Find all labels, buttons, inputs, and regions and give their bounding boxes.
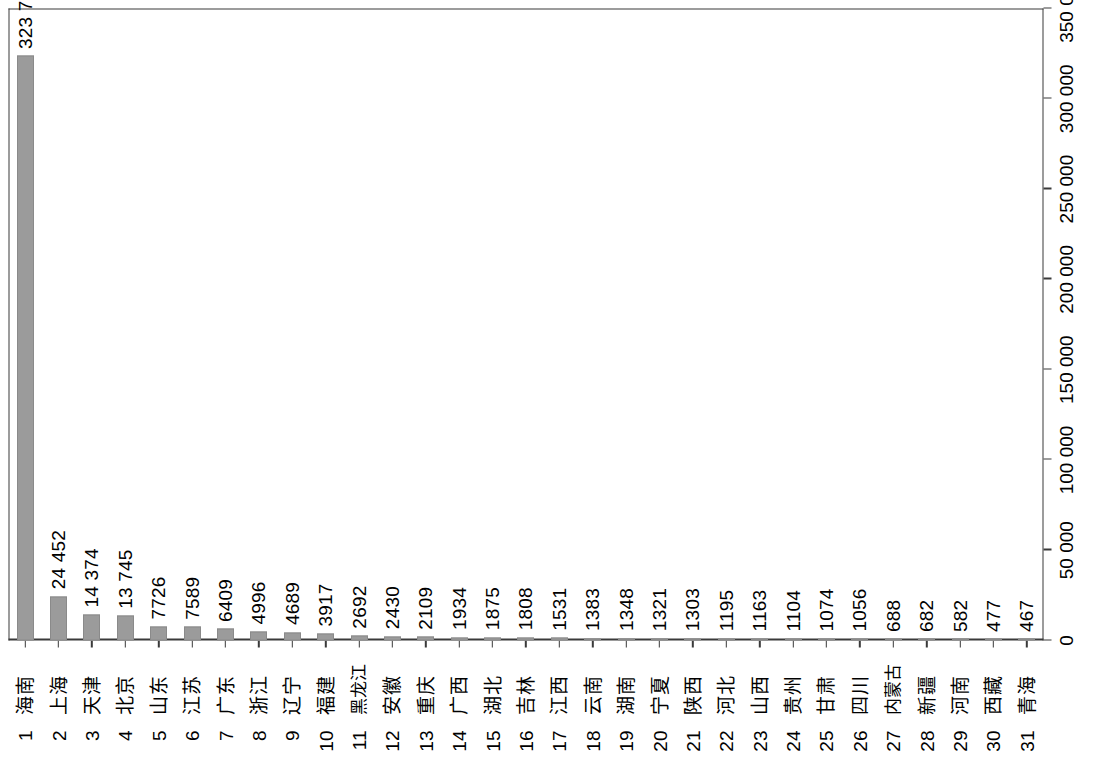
bar — [250, 631, 267, 640]
category-label: 18云南 — [576, 640, 609, 770]
category-rank: 19 — [616, 730, 635, 760]
value-axis: 050 000100 000150 000200 000250 000300 0… — [1043, 8, 1103, 640]
bar — [83, 614, 100, 640]
category-label: 22河北 — [709, 640, 742, 770]
category-rank: 26 — [850, 730, 869, 760]
category-name: 北京 — [115, 640, 134, 714]
bar-value-label: 1056 — [850, 588, 869, 631]
bar-value-label: 24 452 — [49, 530, 68, 589]
bar — [684, 638, 701, 640]
category-rank: 13 — [416, 730, 435, 760]
bar — [884, 638, 901, 640]
bar-value-label: 1104 — [783, 589, 802, 631]
category-label: 8浙江 — [242, 640, 275, 770]
value-tick-label: 250 000 — [1056, 154, 1075, 223]
bar — [951, 638, 968, 640]
category-name: 吉林 — [516, 640, 535, 714]
bar-row: 1383 — [576, 8, 609, 640]
category-rank: 12 — [382, 730, 401, 760]
category-tick — [158, 640, 159, 647]
bar-value-label: 2430 — [382, 586, 401, 629]
category-tick — [658, 640, 659, 647]
bar-row: 1934 — [442, 8, 475, 640]
bar-row: 7726 — [142, 8, 175, 640]
bar-value-label: 1531 — [549, 587, 568, 630]
category-label: 26四川 — [843, 640, 876, 770]
bar-value-label: 1934 — [449, 586, 468, 629]
category-label: 9辽宁 — [275, 640, 308, 770]
bar — [383, 636, 400, 640]
category-name: 海南 — [15, 640, 34, 714]
category-tick — [525, 640, 526, 647]
category-name: 黑龙江 — [350, 640, 367, 714]
category-name: 宁夏 — [650, 640, 669, 714]
value-tick — [1043, 368, 1051, 369]
category-name: 云南 — [583, 640, 602, 714]
category-label: 14广西 — [442, 640, 475, 770]
category-name: 贵州 — [783, 640, 802, 714]
category-label: 28新疆 — [909, 640, 942, 770]
bar — [450, 637, 467, 640]
bar-row: 4689 — [275, 8, 308, 640]
category-name: 天津 — [82, 640, 101, 714]
category-rank: 2 — [49, 730, 68, 760]
category-rank: 28 — [917, 730, 936, 760]
category-rank: 10 — [316, 730, 335, 760]
bar-row: 477 — [976, 8, 1009, 640]
bar-row: 2692 — [342, 8, 375, 640]
bar — [550, 637, 567, 640]
category-name: 西藏 — [983, 640, 1002, 714]
category-name: 广东 — [216, 640, 235, 714]
value-tick — [1043, 548, 1051, 549]
value-tick-label: 0 — [1056, 635, 1075, 646]
category-rank: 30 — [983, 730, 1002, 760]
category-tick — [592, 640, 593, 647]
bar-value-label: 682 — [917, 599, 936, 631]
bar-value-label: 1195 — [716, 589, 735, 631]
category-tick — [391, 640, 392, 647]
bar-value-label: 13 745 — [115, 549, 134, 608]
bar-row: 7589 — [175, 8, 208, 640]
bar — [918, 638, 935, 640]
bar — [283, 632, 300, 640]
category-rank: 11 — [349, 730, 368, 760]
category-name: 浙江 — [249, 640, 268, 714]
bar-row: 24 452 — [41, 8, 74, 640]
category-tick — [425, 640, 426, 647]
bar-row: 682 — [909, 8, 942, 640]
category-rank: 7 — [216, 730, 235, 760]
category-tick — [759, 640, 760, 647]
bar-row: 1808 — [509, 8, 542, 640]
category-label: 16吉林 — [509, 640, 542, 770]
category-tick — [892, 640, 893, 647]
category-rank: 18 — [583, 730, 602, 760]
category-label: 23山西 — [743, 640, 776, 770]
bar — [183, 626, 200, 640]
bar-row: 3917 — [308, 8, 341, 640]
category-rank: 3 — [82, 730, 101, 760]
category-label: 6江苏 — [175, 640, 208, 770]
bar-value-label: 1348 — [616, 588, 635, 631]
bar-row: 1104 — [776, 8, 809, 640]
category-rank: 21 — [683, 730, 702, 760]
bar-value-label: 14 374 — [82, 548, 101, 607]
category-name: 河北 — [716, 640, 735, 714]
category-rank: 29 — [950, 730, 969, 760]
category-label: 20宁夏 — [642, 640, 675, 770]
value-tick-label: 100 000 — [1056, 425, 1075, 494]
category-label: 11黑龙江 — [342, 640, 375, 770]
category-name: 四川 — [850, 640, 869, 714]
category-label: 3天津 — [75, 640, 108, 770]
bar-value-label: 582 — [950, 599, 969, 631]
category-name: 河南 — [950, 640, 969, 714]
bar-value-label: 1321 — [650, 588, 669, 631]
bar-row: 688 — [876, 8, 909, 640]
bar-row: 14 374 — [75, 8, 108, 640]
value-tick-label: 300 000 — [1056, 64, 1075, 133]
bar-row: 467 — [1010, 8, 1043, 640]
category-tick — [91, 640, 92, 647]
bar-row: 323 720 — [8, 8, 41, 640]
value-tick — [1043, 277, 1051, 278]
category-name: 内蒙古 — [884, 640, 901, 714]
bar — [617, 638, 634, 640]
